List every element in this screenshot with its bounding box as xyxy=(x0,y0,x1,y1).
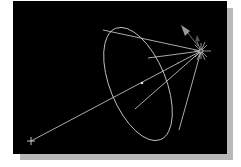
cone-edge-right xyxy=(179,51,201,130)
target-cross-icon[interactable] xyxy=(27,137,35,145)
spotlight-diagram xyxy=(0,0,241,167)
hotspot-marker xyxy=(177,62,179,64)
up-vector-icon xyxy=(195,35,200,42)
cone-edge-lower xyxy=(135,51,201,109)
light-axis xyxy=(31,51,201,141)
direction-arrow-icon[interactable] xyxy=(181,25,198,46)
axis-midpoint[interactable] xyxy=(141,82,144,85)
cone-edge-mid xyxy=(148,51,201,58)
